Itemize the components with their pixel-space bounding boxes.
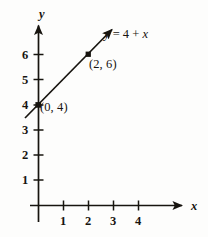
x-axis-label: x [191,200,197,213]
y-tick-label-6: 6 [22,49,28,62]
y-tick-label-5: 5 [22,74,28,87]
equation-annotation: y = 4 + x [104,28,148,41]
y-tick-label-4: 4 [22,99,28,112]
y-tick-label-3: 3 [22,124,28,137]
y-tick-label-2: 2 [22,149,28,162]
point-label-2-6: (2, 6) [89,58,117,71]
equation-rhs: x [142,27,148,41]
y-tick-label-1: 1 [22,174,28,187]
equation-relation: = 4 + [110,27,143,41]
point-label-0-4: (0, 4) [40,101,68,114]
graph-figure: y x 1 2 3 4 5 6 1 2 3 4 y = 4 + x (2, 6)… [0,0,208,237]
x-tick-label-1: 1 [60,215,66,228]
x-tick-label-3: 3 [110,215,116,228]
x-tick-label-2: 2 [85,215,91,228]
y-axis-label: y [39,8,45,21]
x-tick-label-4: 4 [135,215,141,228]
